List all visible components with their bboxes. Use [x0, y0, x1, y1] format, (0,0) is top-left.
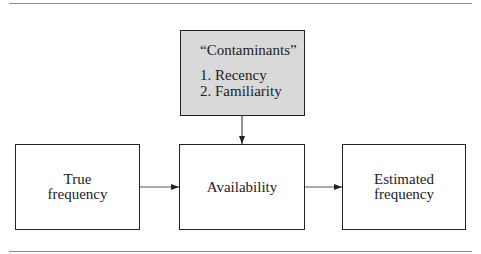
arrows — [0, 0, 481, 254]
bottom-rule — [9, 251, 472, 252]
